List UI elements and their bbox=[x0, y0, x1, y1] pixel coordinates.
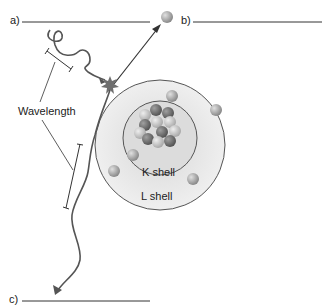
electron bbox=[108, 165, 120, 177]
electron bbox=[127, 149, 139, 161]
wavelength-leader bbox=[40, 62, 55, 102]
k-shell-label: K shell bbox=[142, 166, 175, 178]
label-b: b) bbox=[181, 14, 191, 26]
electron bbox=[210, 104, 222, 116]
atom-diagram bbox=[0, 0, 329, 307]
ejected-electron bbox=[161, 11, 173, 23]
electron bbox=[166, 90, 178, 102]
wavelength-label: Wavelength bbox=[18, 105, 76, 117]
wavelength-leader bbox=[42, 120, 73, 170]
electron bbox=[187, 173, 199, 185]
label-a: a) bbox=[10, 14, 20, 26]
ejection-arrow bbox=[114, 28, 158, 84]
l-shell-label: L shell bbox=[141, 190, 172, 202]
incoming-photon-wave bbox=[48, 30, 105, 80]
label-c: c) bbox=[9, 293, 18, 305]
wavelength-bracket-bottom bbox=[63, 144, 83, 209]
arrowhead-icon bbox=[152, 24, 161, 33]
